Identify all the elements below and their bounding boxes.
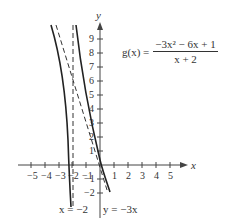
x-axis: −5 −4 −3 −2 −1 1 2 3 4 5 x bbox=[18, 159, 196, 181]
x-tick-label: 1 bbox=[112, 170, 117, 181]
x-tick-label: 2 bbox=[126, 170, 131, 181]
y-tick-label: −2 bbox=[84, 187, 95, 198]
y-axis-label: y bbox=[95, 9, 101, 21]
x-tick-label: −5 bbox=[27, 170, 38, 181]
function-formula: g(x) = −3x² − 6x + 1 x + 2 bbox=[122, 38, 218, 65]
y-axis: 9 8 7 6 5 4 3 2 1 −1 −2 y bbox=[84, 9, 103, 218]
function-label: g(x) = bbox=[122, 46, 149, 58]
function-fraction: −3x² − 6x + 1 x + 2 bbox=[153, 38, 217, 65]
x-tick-label: −4 bbox=[41, 170, 52, 181]
vertical-asymptote-label: x = −2 bbox=[59, 203, 88, 215]
y-tick-label: 7 bbox=[89, 61, 94, 72]
function-denominator: x + 2 bbox=[174, 52, 197, 65]
y-tick-label: 5 bbox=[89, 89, 94, 100]
x-tick-label: 5 bbox=[168, 170, 173, 181]
y-tick-label: 1 bbox=[89, 145, 94, 156]
x-tick-label: 4 bbox=[154, 170, 159, 181]
x-tick-label: 3 bbox=[140, 170, 145, 181]
y-tick-label: −1 bbox=[84, 173, 95, 184]
y-tick-label: 8 bbox=[89, 47, 94, 58]
y-tick-label: 6 bbox=[89, 75, 94, 86]
y-tick-label: 9 bbox=[89, 33, 94, 44]
slant-asymptote-label: y = −3x bbox=[103, 203, 137, 215]
x-tick-label: −3 bbox=[55, 170, 66, 181]
function-numerator: −3x² − 6x + 1 bbox=[153, 38, 217, 52]
graph-plot: −5 −4 −3 −2 −1 1 2 3 4 5 x 9 8 7 6 bbox=[0, 0, 229, 223]
x-axis-label: x bbox=[190, 159, 196, 171]
